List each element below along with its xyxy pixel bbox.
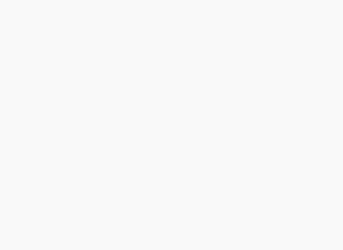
diagram-canvas: [0, 0, 343, 250]
